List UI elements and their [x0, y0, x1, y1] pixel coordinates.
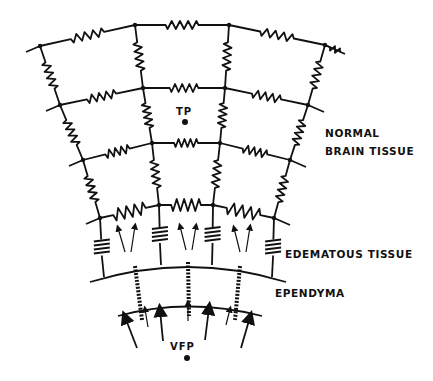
vfp-flow-arrow	[241, 317, 250, 348]
capacitor-plate	[152, 235, 168, 237]
flow-arrow	[131, 226, 135, 252]
resistor	[152, 139, 220, 147]
vfp-label: VFP	[170, 341, 195, 352]
flow-arrow	[192, 226, 196, 250]
capacitor-plate	[265, 244, 281, 246]
capacitor-plate	[205, 227, 221, 229]
capacitor-plate	[152, 239, 168, 241]
wire	[273, 218, 274, 240]
tissue-network-diagram	[0, 0, 433, 381]
wire	[102, 256, 104, 278]
capacitor-plate	[265, 248, 281, 250]
edematous-tissue-label: EDEMATOUS TISSUE	[285, 248, 413, 260]
tissue-point-dot	[182, 119, 188, 125]
wire	[160, 243, 161, 265]
vfp-flow-arrow	[145, 309, 148, 327]
flow-arrow	[180, 226, 186, 250]
wire-stub	[26, 46, 40, 52]
wire-stub	[274, 218, 290, 225]
vfp-flow-arrow	[125, 317, 137, 348]
vfp-flow-arrow	[226, 309, 230, 325]
resistor	[222, 25, 231, 88]
capacitor-plate	[152, 227, 168, 229]
resistor	[212, 143, 222, 205]
resistor	[308, 45, 325, 105]
junction-node	[38, 44, 42, 48]
capacitor-plate	[152, 231, 168, 233]
resistor	[142, 88, 153, 143]
vfp-dot	[184, 355, 190, 361]
junction-node	[81, 158, 85, 162]
resistor	[159, 199, 213, 211]
capacitor-plate	[265, 240, 281, 242]
capacitor-plate	[205, 231, 221, 233]
resistor	[83, 143, 152, 160]
flow-arrow	[234, 228, 240, 252]
wire	[272, 256, 273, 278]
wire-stub	[69, 160, 83, 166]
junction-node	[58, 103, 62, 107]
wire-stub	[86, 218, 100, 224]
resistor	[40, 25, 135, 46]
junction-node	[227, 23, 231, 27]
wire	[212, 243, 213, 265]
junction-node	[133, 23, 137, 27]
capacitor-plate	[94, 252, 110, 254]
wire-stub	[308, 105, 324, 112]
resistor	[40, 46, 60, 105]
resistor	[135, 21, 229, 29]
resistor	[225, 88, 308, 105]
capacitor-plate	[94, 248, 110, 250]
junction-node	[323, 43, 327, 47]
junction-node	[141, 86, 145, 90]
capacitor-plate	[205, 239, 221, 241]
resistor	[143, 84, 225, 92]
resistor	[274, 160, 290, 218]
resistor	[229, 25, 325, 45]
wire-stub	[46, 105, 60, 111]
resistor	[150, 143, 161, 205]
resistor	[133, 25, 144, 88]
resistor	[290, 105, 308, 160]
wire	[100, 218, 101, 240]
capacitor-plate	[265, 252, 281, 254]
resistor	[60, 105, 83, 160]
junction-node	[306, 103, 310, 107]
tissue-point-label: TP	[176, 106, 192, 117]
vfp-flow-arrow	[160, 310, 163, 341]
resistor	[213, 203, 274, 219]
capacitor-plate	[94, 244, 110, 246]
junction-node	[288, 158, 292, 162]
resistor	[100, 203, 159, 221]
ependyma-label: EPENDYMA	[275, 287, 345, 299]
wire-stub	[290, 160, 306, 167]
resistor	[325, 45, 345, 54]
vfp-flow-arrow	[205, 308, 209, 340]
flow-arrow	[118, 228, 125, 252]
junction-node	[150, 141, 154, 145]
resistor	[60, 88, 143, 105]
normal-brain-tissue-label-line2: BRAIN TISSUE	[325, 145, 414, 157]
resistor	[220, 143, 290, 160]
resistor	[218, 88, 227, 143]
junction-node	[218, 141, 222, 145]
normal-brain-tissue-label-line1: NORMAL	[325, 127, 380, 139]
junction-node	[223, 86, 227, 90]
wire	[159, 205, 160, 227]
flow-arrow	[246, 227, 250, 252]
capacitor-plate	[205, 235, 221, 237]
resistor	[83, 160, 100, 218]
capacitor-plate	[94, 240, 110, 242]
